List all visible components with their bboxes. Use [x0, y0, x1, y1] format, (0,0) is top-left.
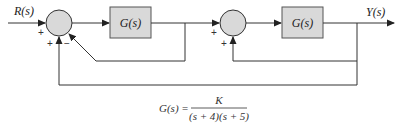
equation-numerator: K: [214, 94, 223, 106]
block1-label: G(s): [120, 16, 141, 30]
sum2-sign-left: +: [211, 27, 217, 38]
block2-label: G(s): [292, 16, 313, 30]
sum1-sign-left: +: [38, 27, 44, 38]
transfer-function-equation: G(s) = K (s + 4)(s + 5): [159, 94, 249, 123]
input-label: R(s): [13, 4, 34, 18]
summing-junction-1: [46, 10, 72, 36]
sum2-sign-bottom: +: [221, 38, 227, 49]
sum1-sign-bottom-left: +: [47, 38, 53, 49]
block-diagram: R(s) + + − G(s) + + G(s) Y(s) G(s) = K (…: [0, 0, 403, 126]
summing-junction-2: [220, 10, 246, 36]
equation-denominator: (s + 4)(s + 5): [189, 110, 249, 123]
equation-lhs: G(s) =: [159, 102, 189, 115]
output-label: Y(s): [366, 5, 385, 19]
sum1-sign-bottom-right: −: [64, 38, 70, 49]
